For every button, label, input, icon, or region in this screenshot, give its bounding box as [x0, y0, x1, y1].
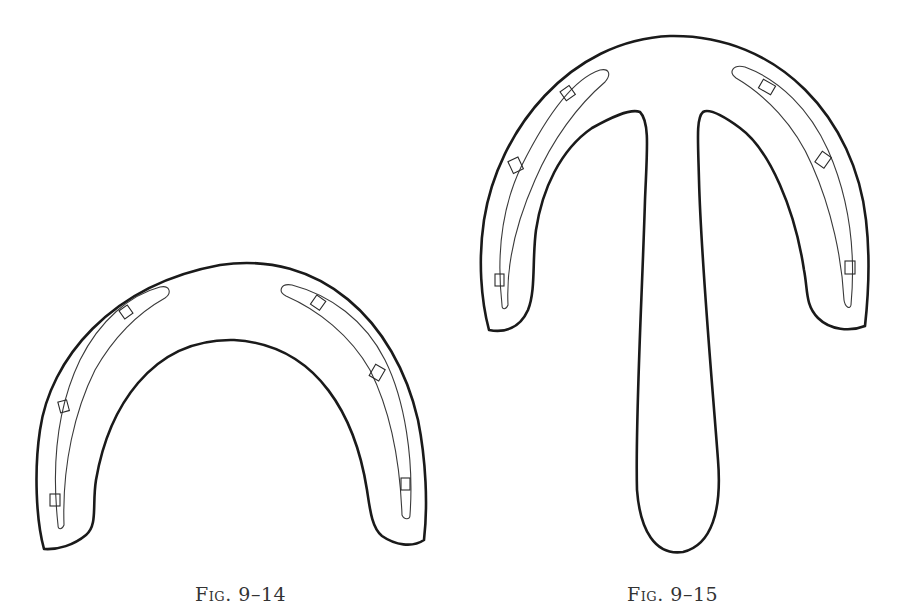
figure-9-15-stemmed-horseshoe [481, 36, 869, 552]
caption-prefix: Fig. [627, 583, 664, 605]
stemmed-horseshoe-outline [481, 36, 869, 552]
figures-canvas [0, 0, 901, 613]
nail-hole [401, 478, 410, 490]
nail-hole [815, 151, 831, 168]
caption-number: 9–14 [238, 583, 286, 605]
figure-caption-9-14: Fig. 9–14 [195, 583, 286, 605]
right-groove [281, 285, 411, 519]
left-groove [56, 287, 170, 529]
caption-prefix: Fig. [195, 583, 232, 605]
right-groove [732, 66, 853, 307]
caption-number: 9–15 [670, 583, 718, 605]
nail-hole [845, 261, 855, 274]
figure-caption-9-15: Fig. 9–15 [627, 583, 718, 605]
nail-hole [50, 494, 60, 506]
figure-9-14-horseshoe [37, 263, 426, 549]
horseshoe-outline [37, 263, 426, 549]
left-groove [500, 70, 609, 309]
nail-hole [508, 157, 523, 173]
